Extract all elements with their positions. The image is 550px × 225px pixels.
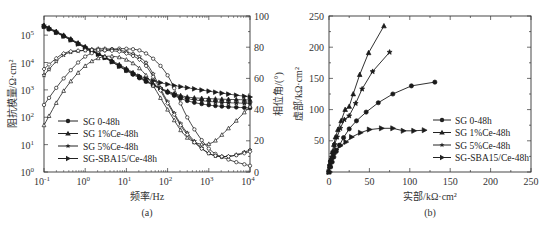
nyquist-plot: 050100150200250 50100150200250 实部/kΩ·cm²… <box>292 11 539 220</box>
x-tick-label: 50 <box>364 176 374 187</box>
x-tick-label: 100 <box>76 175 90 187</box>
y-tick-label: 105 <box>21 29 35 41</box>
svg-text:SG 5%Ce-48h: SG 5%Ce-48h <box>83 142 138 152</box>
x-tick-label: 102 <box>159 175 173 187</box>
legend-item-sg0: SG 0-48h <box>433 116 492 126</box>
right-triangle-marker-icon <box>66 156 71 162</box>
y-tick-label: 250 <box>309 11 324 22</box>
legend-item-sg1ce: SG 1%Ce-48h <box>58 129 138 139</box>
x-tick-label: 200 <box>483 176 498 187</box>
filled-circle-marker-icon <box>440 118 444 122</box>
caption-b: (b) <box>424 207 436 219</box>
y-tick-labels-b: 50100150200250 <box>309 11 324 147</box>
x-tick-label: 100 <box>402 176 417 187</box>
y-axis-label-a: 阻抗模量/Ω·cm² <box>6 60 18 129</box>
y-tick-labels-a: 100101102103104105 <box>21 29 35 178</box>
curve <box>329 128 424 172</box>
x-tick-label: 10-1 <box>34 175 50 187</box>
axis-ticks-a <box>44 16 250 172</box>
data-curves-b <box>327 23 437 174</box>
x-tick-label: 250 <box>524 176 539 187</box>
legend-item-sg5ce: SG 5%Ce-48h <box>433 141 510 151</box>
legend-item-sgsba15: SG-SBA15/Ce-48h <box>433 153 529 163</box>
y-axis-label-b: 虚部/kΩ·cm² <box>292 67 304 121</box>
y-tick-label: 101 <box>21 139 35 151</box>
curve <box>329 52 390 172</box>
y-tick-label: 100 <box>21 166 35 178</box>
x-axis-label-a: 频率/Hz <box>130 190 165 202</box>
y-right-axis-label-a: 相位角/(°) <box>272 72 285 115</box>
legend-item-sgsba15: SG-SBA15/Ce-48h <box>58 154 157 164</box>
y-tick-label: 200 <box>309 42 324 53</box>
curve <box>44 56 250 144</box>
svg-text:SG 1%Ce-48h: SG 1%Ce-48h <box>83 129 138 139</box>
bode-plot: 10-1100101102103104 100101102103104105 0… <box>6 11 285 220</box>
svg-text:SG 5%Ce-48h: SG 5%Ce-48h <box>455 141 510 151</box>
svg-text:SG 0-48h: SG 0-48h <box>455 116 492 126</box>
x-tick-label: 150 <box>443 176 458 187</box>
legend-item-sg5ce: SG 5%Ce-48h <box>58 142 138 152</box>
svg-text:SG 1%Ce-48h: SG 1%Ce-48h <box>455 128 510 138</box>
x-tick-label: 0 <box>327 176 332 187</box>
y-tick-label: 102 <box>21 111 35 123</box>
filled-circle-marker-icon <box>66 119 70 123</box>
x-tick-label: 103 <box>200 175 214 187</box>
x-tick-label: 101 <box>118 175 132 187</box>
markers <box>327 126 427 175</box>
y-right-tick-label: 20 <box>254 135 264 146</box>
svg-text:SG-SBA15/Ce-48h: SG-SBA15/Ce-48h <box>455 153 529 163</box>
y-right-tick-label: 100 <box>254 11 269 22</box>
y-tick-label: 150 <box>309 73 324 84</box>
markers <box>42 24 252 99</box>
y-tick-label: 103 <box>21 84 35 96</box>
svg-text:SG 0-48h: SG 0-48h <box>83 117 120 127</box>
legend-b: SG 0-48h SG 1%Ce-48h SG 5%Ce-48h SG-SBA1… <box>433 116 529 164</box>
y-tick-label: 104 <box>21 57 35 69</box>
caption-a: (a) <box>141 207 152 219</box>
y-right-tick-label: 80 <box>254 42 264 53</box>
svg-text:SG-SBA15/Ce-48h: SG-SBA15/Ce-48h <box>83 154 157 164</box>
plot-frame-a <box>44 16 250 172</box>
x-tick-labels-a: 10-1100101102103104 <box>34 175 255 187</box>
y-right-tick-labels-a: 020406080100 <box>254 11 269 178</box>
y-right-tick-label: 40 <box>254 104 264 115</box>
legend-item-sg1ce: SG 1%Ce-48h <box>433 128 510 138</box>
markers <box>327 50 393 175</box>
y-tick-label: 50 <box>314 135 324 146</box>
curve <box>44 26 250 97</box>
legend-item-sg0: SG 0-48h <box>58 117 120 127</box>
y-tick-label: 100 <box>309 104 324 115</box>
y-right-tick-label: 60 <box>254 73 264 84</box>
figure: 10-1100101102103104 100101102103104105 0… <box>0 0 550 225</box>
x-tick-labels-b: 050100150200250 <box>327 176 539 187</box>
y-right-tick-label: 0 <box>254 167 259 178</box>
legend-a: SG 0-48h SG 1%Ce-48h SG 5%Ce-48h SG-SBA1… <box>58 117 157 165</box>
x-axis-label-b: 实部/kΩ·cm² <box>403 190 457 202</box>
right-triangle-marker-icon <box>440 155 445 161</box>
